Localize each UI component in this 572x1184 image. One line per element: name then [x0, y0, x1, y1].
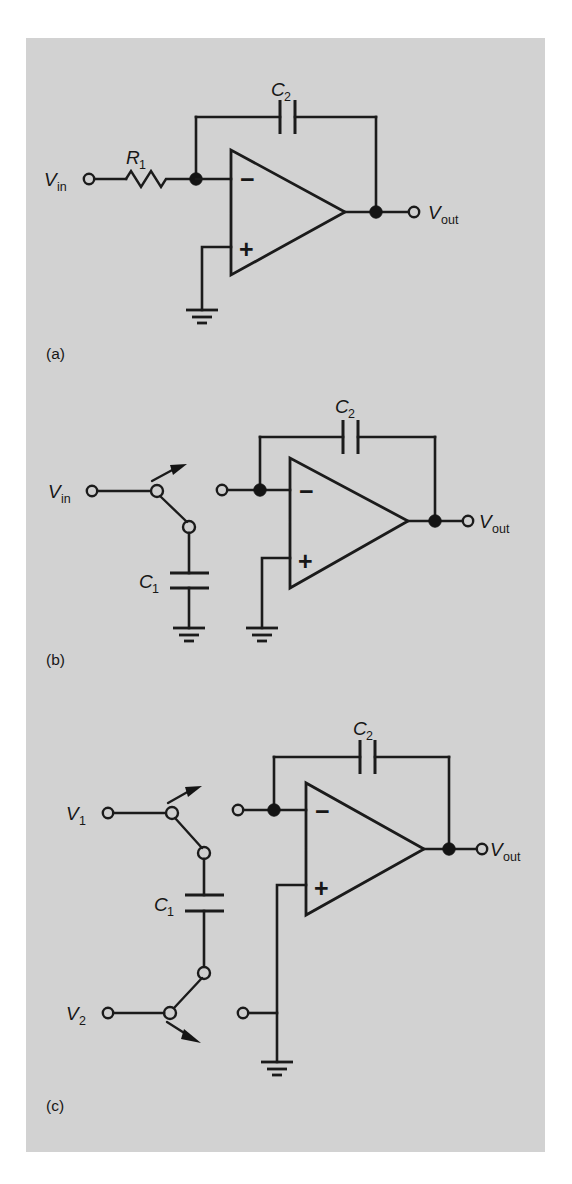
c1-label-main-b: C	[139, 571, 153, 592]
switch-s1-pivot-b	[151, 485, 163, 497]
vout-label-sub-c: out	[503, 850, 521, 864]
output-node-b	[429, 515, 441, 527]
c2-label-main-c: C	[353, 718, 367, 739]
v2-terminal-c	[103, 1008, 113, 1018]
vout-label-sub-a: out	[441, 213, 459, 227]
r1-label-main-a: R	[126, 147, 140, 168]
c2-label-main-a: C	[271, 79, 285, 100]
c1-label-sub-c: 1	[167, 905, 174, 919]
noninverting-sign-a: +	[239, 235, 254, 263]
summing-node-c	[268, 804, 280, 816]
r1-label-sub-a: 1	[139, 158, 146, 172]
c2-label-sub-a: 2	[284, 90, 291, 104]
vin-label-sub-a: in	[57, 180, 67, 194]
v1-terminal-c	[103, 808, 113, 818]
c1-label-sub-b: 1	[152, 582, 159, 596]
c2-label-sub-c: 2	[366, 729, 373, 743]
vin-terminal-a	[84, 174, 94, 184]
noninverting-sign-c: +	[314, 874, 329, 902]
inverting-sign-a: −	[240, 165, 255, 193]
switch-s1-throw-b	[183, 521, 195, 533]
caption-c: (c)	[46, 1097, 64, 1114]
vout-terminal-c	[477, 844, 487, 854]
caption-b: (b)	[46, 651, 65, 668]
noninverting-sign-b: +	[298, 547, 313, 575]
vout-terminal-a	[409, 207, 419, 217]
vout-terminal-b	[463, 516, 473, 526]
figure-container: C 2 R 1 V in − +	[0, 0, 572, 1184]
circuit-figure: C 2 R 1 V in − +	[0, 0, 572, 1184]
v1-label-sub-c: 1	[79, 814, 86, 828]
summing-node-b	[254, 484, 266, 496]
caption-a: (a)	[46, 345, 65, 362]
reference-terminal-c	[238, 1008, 248, 1018]
scan-panel-background	[26, 38, 545, 1152]
c2-label-sub-b: 2	[348, 407, 355, 421]
v2-label-sub-c: 2	[79, 1014, 86, 1028]
inverting-sign-c: −	[315, 797, 330, 825]
switch-s1-throw-c	[198, 847, 210, 859]
inverting-sign-b: −	[299, 477, 314, 505]
output-node-c	[443, 843, 455, 855]
output-node-a	[370, 206, 382, 218]
switch-s2-throw-c	[198, 967, 210, 979]
vout-label-sub-b: out	[492, 522, 510, 536]
switch-s1-pivot-c	[166, 807, 178, 819]
c2-label-main-b: C	[335, 396, 349, 417]
opamp-input-terminal-b	[217, 485, 227, 495]
c1-label-main-c: C	[154, 894, 168, 915]
vin-label-sub-b: in	[61, 492, 71, 506]
vin-terminal-b	[87, 486, 97, 496]
opamp-input-terminal-c	[233, 805, 243, 815]
